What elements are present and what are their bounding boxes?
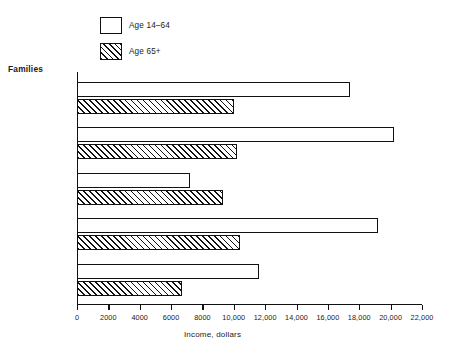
x-tick-label: 0 xyxy=(75,313,79,322)
x-tick-label: 22,000 xyxy=(411,313,434,322)
x-axis-title-text: Income, dollars xyxy=(184,330,241,339)
x-tick-label: 12,000 xyxy=(254,313,277,322)
bar-group xyxy=(77,173,422,205)
x-tick xyxy=(328,305,329,310)
legend-label-age-65-plus: Age 65+ xyxy=(129,47,161,56)
x-tick-label: 18,000 xyxy=(348,313,371,322)
bar-group xyxy=(77,264,422,296)
legend-item-age-14-64: Age 14–64 xyxy=(100,14,320,36)
x-tick-label: 10,000 xyxy=(222,313,245,322)
legend-swatch-hatched-icon xyxy=(100,43,122,60)
bar-white-age-14-64 xyxy=(77,218,378,233)
x-tick xyxy=(391,305,392,310)
bar-white-age-65-plus xyxy=(77,235,240,250)
bar-total-age-14-64 xyxy=(77,82,350,97)
legend-label-age-14-64: Age 14–64 xyxy=(129,21,170,30)
legend-item-age-65-plus: Age 65+ xyxy=(100,40,320,62)
x-tick xyxy=(108,305,109,310)
bar-group xyxy=(77,127,422,159)
x-tick xyxy=(77,305,78,310)
x-tick-label: 2000 xyxy=(100,313,117,322)
x-tick-label: 16,000 xyxy=(316,313,339,322)
bar-female-head-age-14-64 xyxy=(77,173,190,188)
x-axis-title: Income, dollars xyxy=(0,330,453,339)
x-tick-label: 4000 xyxy=(131,313,148,322)
x-tick xyxy=(140,305,141,310)
bar-group xyxy=(77,82,422,114)
x-tick xyxy=(202,305,203,310)
chart-container: Age 14–64 Age 65+ Families TotalMale hea… xyxy=(0,0,453,354)
plot-area: 0200040006000800010,00012,00014,00016,00… xyxy=(77,78,422,305)
legend-swatch-white-icon xyxy=(100,17,122,34)
x-tick xyxy=(422,305,423,310)
x-tick xyxy=(171,305,172,310)
x-tick-label: 6000 xyxy=(163,313,180,322)
bar-black-age-65-plus xyxy=(77,281,182,296)
legend: Age 14–64 Age 65+ xyxy=(100,14,320,66)
bar-female-head-age-65-plus xyxy=(77,190,223,205)
bar-group xyxy=(77,218,422,250)
bar-male-head-age-14-64 xyxy=(77,127,394,142)
x-tick-label: 8000 xyxy=(194,313,211,322)
bar-black-age-14-64 xyxy=(77,264,259,279)
bar-male-head-age-65-plus xyxy=(77,144,237,159)
x-tick-label: 20,000 xyxy=(379,313,402,322)
x-tick xyxy=(234,305,235,310)
x-tick-label: 14,000 xyxy=(285,313,308,322)
group-title: Families xyxy=(8,64,43,74)
x-axis-line xyxy=(77,304,422,305)
bar-total-age-65-plus xyxy=(77,99,234,114)
x-tick xyxy=(297,305,298,310)
x-tick xyxy=(359,305,360,310)
x-tick xyxy=(265,305,266,310)
